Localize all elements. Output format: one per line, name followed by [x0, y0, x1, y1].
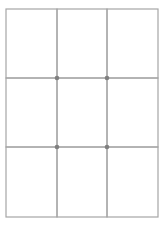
- junction-dot: [55, 76, 60, 81]
- grid-cell-r2-c1: [6, 78, 57, 147]
- junction-dot: [105, 76, 110, 81]
- junction-dot: [105, 145, 110, 150]
- grid-cell-r2-c2: [57, 78, 107, 147]
- grid-cell-r1-c1: [6, 9, 57, 78]
- grid-cell-r3-c2: [57, 147, 107, 217]
- grid-cell-r1-c3: [107, 9, 158, 78]
- grid-cell-r3-c3: [107, 147, 158, 217]
- grid-cell-r3-c1: [6, 147, 57, 217]
- junction-dot: [55, 145, 60, 150]
- grid-cell-r2-c3: [107, 78, 158, 147]
- grid-cell-r1-c2: [57, 9, 107, 78]
- grid-diagram: [0, 0, 166, 226]
